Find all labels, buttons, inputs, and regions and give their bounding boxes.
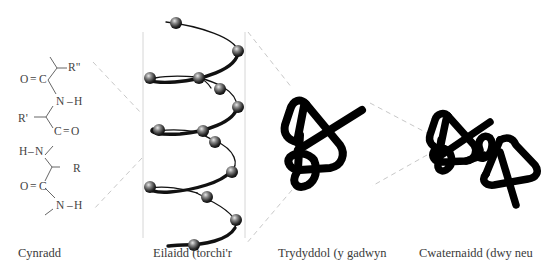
bond-eq3: = xyxy=(30,181,37,193)
protein-structure-diagram xyxy=(0,0,550,268)
quaternary-structure-chains xyxy=(429,114,537,205)
tertiary-structure-chain xyxy=(285,101,362,187)
label-primary: Cynradd xyxy=(18,246,61,261)
atom-n2: N xyxy=(35,146,43,158)
label-quaternary: Cwaternaidd (dwy neu xyxy=(419,246,533,261)
atom-n3: N xyxy=(56,200,64,212)
atom-o1: O xyxy=(20,74,28,86)
bond-eq2: = xyxy=(63,126,70,138)
atom-r-prime: R' xyxy=(18,113,28,125)
atom-n1: N xyxy=(56,96,64,108)
atom-o2: O xyxy=(71,126,79,138)
atom-h1: H xyxy=(74,96,82,108)
atom-c2: C xyxy=(54,126,62,138)
atom-h3: H xyxy=(74,200,82,212)
atom-r-double-prime: R" xyxy=(68,62,80,74)
bond-n1-h1: – xyxy=(67,96,73,108)
atom-c1: C xyxy=(39,74,47,86)
label-secondary: Eilaidd (torchi'r xyxy=(153,246,232,261)
bond-n3-h3: – xyxy=(67,200,73,212)
atom-r: R xyxy=(73,163,81,175)
bond-h2-n2: – xyxy=(28,146,34,158)
atom-h2: H xyxy=(19,146,27,158)
helix-residue-spheres xyxy=(144,17,244,251)
atom-o3: O xyxy=(20,181,28,193)
bond-eq1: = xyxy=(30,74,37,86)
atom-c3: C xyxy=(39,181,47,193)
label-tertiary: Trydyddol (y gadwyn xyxy=(278,246,387,261)
